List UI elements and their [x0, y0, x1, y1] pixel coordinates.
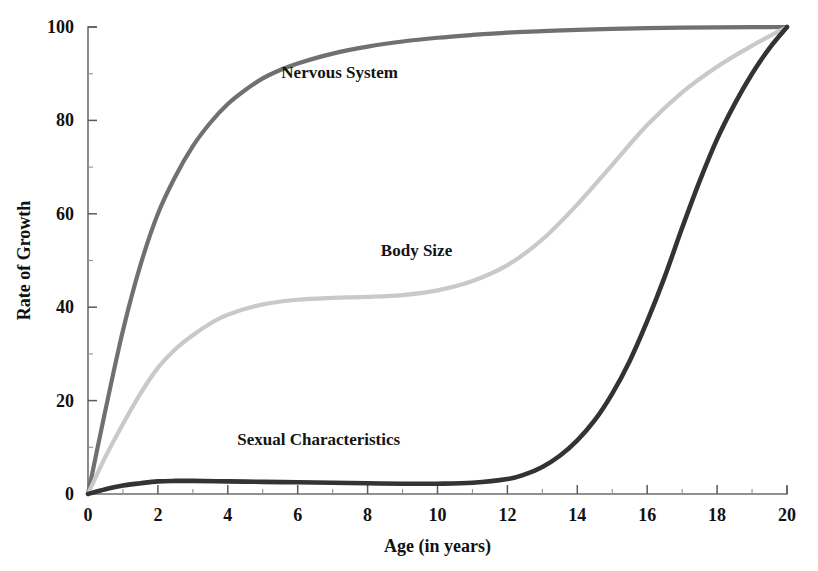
series-label-sexual-characteristics: Sexual Characteristics — [237, 430, 400, 449]
series-curve-nervous-system — [88, 27, 787, 494]
chart-canvas: 020406080100 02468101214161820 Nervous S… — [0, 0, 818, 571]
y-axis-title: Rate of Growth — [14, 201, 34, 321]
series-annotations: Nervous SystemBody SizeSexual Characteri… — [237, 63, 452, 449]
x-tick-label: 0 — [84, 505, 93, 525]
x-tick-label: 8 — [363, 505, 372, 525]
y-tick-label: 0 — [65, 484, 74, 504]
x-axis-title: Age (in years) — [384, 536, 491, 557]
series-label-nervous-system: Nervous System — [281, 63, 398, 82]
y-tick-label: 60 — [56, 204, 74, 224]
y-tick-label: 40 — [56, 297, 74, 317]
x-tick-label: 20 — [778, 505, 796, 525]
y-tick-label: 100 — [47, 17, 74, 37]
y-tick-label: 80 — [56, 110, 74, 130]
x-tick-label: 14 — [568, 505, 586, 525]
y-axis-tick-labels: 020406080100 — [47, 17, 74, 504]
x-tick-label: 10 — [429, 505, 447, 525]
x-tick-label: 4 — [223, 505, 232, 525]
x-tick-label: 2 — [153, 505, 162, 525]
x-axis-ticks — [123, 485, 787, 494]
x-tick-label: 16 — [638, 505, 656, 525]
series-curve-body-size — [88, 27, 787, 494]
growth-rate-chart: 020406080100 02468101214161820 Nervous S… — [0, 0, 818, 571]
x-tick-label: 18 — [708, 505, 726, 525]
y-axis-ticks — [88, 27, 97, 447]
x-axis-tick-labels: 02468101214161820 — [84, 505, 797, 525]
series-curves — [88, 27, 787, 494]
x-tick-label: 12 — [498, 505, 516, 525]
y-tick-label: 20 — [56, 391, 74, 411]
series-label-body-size: Body Size — [381, 241, 453, 260]
series-curve-sexual-characteristics — [88, 27, 787, 494]
x-tick-label: 6 — [293, 505, 302, 525]
